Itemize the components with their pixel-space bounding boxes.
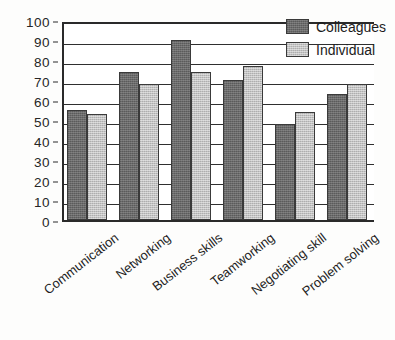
bar-business-skills-colleagues bbox=[171, 40, 191, 220]
chart-page: 1009080706050403020100 CommunicationNetw… bbox=[0, 0, 395, 340]
bar-negotiating-skill-individual bbox=[295, 112, 315, 220]
legend-label: Individual bbox=[316, 42, 375, 58]
y-tick-label: 50 bbox=[34, 115, 50, 130]
y-tick-mark bbox=[53, 62, 58, 63]
legend-swatch-colleagues-icon bbox=[286, 19, 309, 34]
x-axis: CommunicationNetworkingBusiness skillsTe… bbox=[0, 226, 395, 340]
bar-teamworking-individual bbox=[243, 66, 263, 220]
bar-teamworking-colleagues bbox=[223, 80, 243, 220]
legend-item-individual[interactable]: Individual bbox=[286, 39, 386, 60]
bar-problem-solving-individual bbox=[347, 84, 367, 220]
y-tick-label: 100 bbox=[26, 15, 50, 30]
x-tick-label: Communication bbox=[41, 230, 121, 297]
bar-networking-colleagues bbox=[119, 72, 139, 220]
bar-negotiating-skill-colleagues bbox=[275, 124, 295, 220]
bar-problem-solving-colleagues bbox=[327, 94, 347, 220]
chart-legend: ColleaguesIndividual bbox=[286, 16, 386, 62]
bar-communication-individual bbox=[87, 114, 107, 220]
y-tick-label: 40 bbox=[34, 135, 50, 150]
y-tick-mark bbox=[53, 222, 58, 223]
y-tick-mark bbox=[53, 142, 58, 143]
y-tick-mark bbox=[53, 182, 58, 183]
y-tick-label: 90 bbox=[34, 35, 50, 50]
y-tick-label: 20 bbox=[34, 175, 50, 190]
y-tick-mark bbox=[53, 122, 58, 123]
y-tick-label: 60 bbox=[34, 95, 50, 110]
bar-communication-colleagues bbox=[67, 110, 87, 220]
y-tick-mark bbox=[53, 202, 58, 203]
y-tick-label: 10 bbox=[34, 195, 50, 210]
bar-networking-individual bbox=[139, 84, 159, 220]
y-tick-label: 70 bbox=[34, 75, 50, 90]
y-tick-mark bbox=[53, 22, 58, 23]
bar-business-skills-individual bbox=[191, 72, 211, 220]
y-tick-mark bbox=[53, 82, 58, 83]
y-tick-label: 30 bbox=[34, 155, 50, 170]
y-axis: 1009080706050403020100 bbox=[0, 0, 58, 240]
legend-swatch-individual-icon bbox=[286, 42, 309, 57]
y-tick-mark bbox=[53, 42, 58, 43]
y-tick-label: 80 bbox=[34, 55, 50, 70]
legend-item-colleagues[interactable]: Colleagues bbox=[286, 16, 386, 37]
y-tick-mark bbox=[53, 102, 58, 103]
y-tick-mark bbox=[53, 162, 58, 163]
legend-label: Colleagues bbox=[316, 19, 386, 35]
